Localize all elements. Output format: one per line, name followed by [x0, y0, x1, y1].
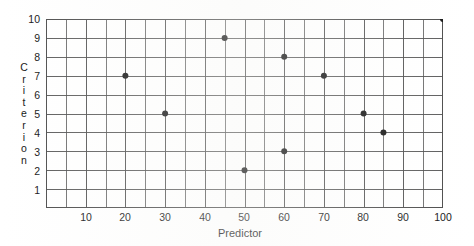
- y-tick-label-6: 6: [22, 90, 40, 101]
- x-tick-label-80: 80: [348, 212, 378, 223]
- data-point: [281, 148, 287, 154]
- x-tick-label-30: 30: [150, 212, 180, 223]
- y-tick-label-3: 3: [22, 147, 40, 158]
- x-tick-label-60: 60: [269, 212, 299, 223]
- x-axis-title: Predictor: [0, 228, 474, 239]
- data-point: [361, 111, 367, 117]
- data-point: [122, 73, 128, 79]
- data-point: [321, 73, 327, 79]
- plot-area: [46, 19, 443, 208]
- x-tick-label-70: 70: [309, 212, 339, 223]
- data-point: [242, 167, 248, 173]
- data-point: [281, 54, 287, 60]
- y-tick-label-9: 9: [22, 33, 40, 44]
- y-tick-label-1: 1: [22, 185, 40, 196]
- y-tick-label-7: 7: [22, 71, 40, 82]
- y-tick-label-2: 2: [22, 166, 40, 177]
- x-tick-label-90: 90: [388, 212, 418, 223]
- data-point-markers: [122, 19, 443, 173]
- data-point: [380, 129, 386, 135]
- data-point: [222, 35, 228, 41]
- x-tick-label-20: 20: [110, 212, 140, 223]
- data-point: [440, 19, 443, 22]
- y-tick-label-5: 5: [22, 109, 40, 120]
- y-tick-label-4: 4: [22, 128, 40, 139]
- y-tick-label-8: 8: [22, 52, 40, 63]
- plot-canvas: [46, 19, 443, 208]
- data-point: [162, 111, 168, 117]
- scatter-plot-figure: C r i t e r i o n 10 9 8 7 6 5 4 3 2 1 1…: [0, 0, 474, 246]
- y-tick-label-10: 10: [22, 14, 40, 25]
- x-tick-label-40: 40: [190, 212, 220, 223]
- x-tick-label-100: 100: [428, 212, 458, 223]
- x-tick-label-10: 10: [71, 212, 101, 223]
- x-tick-label-50: 50: [229, 212, 259, 223]
- x-axis-title-text: Predictor: [218, 228, 262, 239]
